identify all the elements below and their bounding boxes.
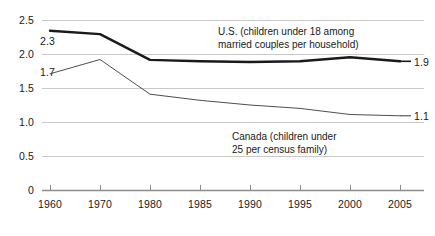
x-tick-1985: 1985	[180, 198, 220, 210]
y-tick-2-5: 2.5	[6, 14, 34, 26]
us-series-annotation: U.S. (children under 18 among married co…	[218, 26, 359, 51]
us-end-value-label: 1.9	[414, 56, 429, 68]
y-tick-0: 0	[6, 184, 34, 196]
canada-annotation-line-2: 25 per census family)	[232, 144, 337, 157]
x-tick-1970: 1970	[80, 198, 120, 210]
line-chart: 2.5 2.0 1.5 1.0 0.5 0 1960 1970 1980 198…	[0, 0, 435, 236]
y-tick-1-5: 1.5	[6, 82, 34, 94]
us-annotation-line-1: U.S. (children under 18 among	[218, 26, 359, 39]
x-tick-2005: 2005	[380, 198, 420, 210]
x-tick-1980: 1980	[130, 198, 170, 210]
series-line-canada	[50, 60, 400, 116]
x-axis	[42, 185, 424, 191]
canada-start-value-label: 1.7	[40, 66, 55, 78]
us-annotation-line-2: married couples per household)	[218, 39, 359, 52]
x-tick-2000: 2000	[330, 198, 370, 210]
y-tick-1-0: 1.0	[6, 116, 34, 128]
y-tick-0-5: 0.5	[6, 150, 34, 162]
y-tick-2-0: 2.0	[6, 48, 34, 60]
x-tick-1960: 1960	[30, 198, 70, 210]
x-tick-1990: 1990	[230, 198, 270, 210]
x-tick-1995: 1995	[280, 198, 320, 210]
canada-series-annotation: Canada (children under 25 per census fam…	[232, 131, 337, 156]
us-start-value-label: 2.3	[40, 35, 55, 47]
canada-annotation-line-1: Canada (children under	[232, 131, 337, 144]
canada-end-value-label: 1.1	[414, 110, 429, 122]
